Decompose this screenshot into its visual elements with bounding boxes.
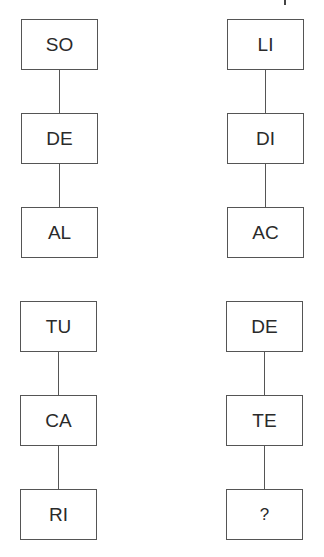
connector <box>264 446 265 489</box>
connector <box>265 164 266 207</box>
box-g4-2: TE <box>226 395 303 446</box>
box-g2-2: DI <box>227 113 304 164</box>
connector <box>58 446 59 489</box>
box-g3-3: RI <box>20 489 97 540</box>
box-g4-1: DE <box>226 301 303 352</box>
box-g3-1: TU <box>20 301 97 352</box>
box-g4-3-unknown: ? <box>226 489 303 540</box>
box-g1-3: AL <box>21 207 98 258</box>
connector <box>58 352 59 395</box>
crop-artifact-mark <box>284 0 286 5</box>
connector <box>265 70 266 113</box>
connector <box>59 164 60 207</box>
box-g2-3: AC <box>227 207 304 258</box>
connector <box>59 70 60 113</box>
box-g3-2: CA <box>20 395 97 446</box>
box-g2-1: LI <box>227 19 304 70</box>
connector <box>264 352 265 395</box>
box-g1-2: DE <box>21 113 98 164</box>
box-g1-1: SO <box>21 19 98 70</box>
